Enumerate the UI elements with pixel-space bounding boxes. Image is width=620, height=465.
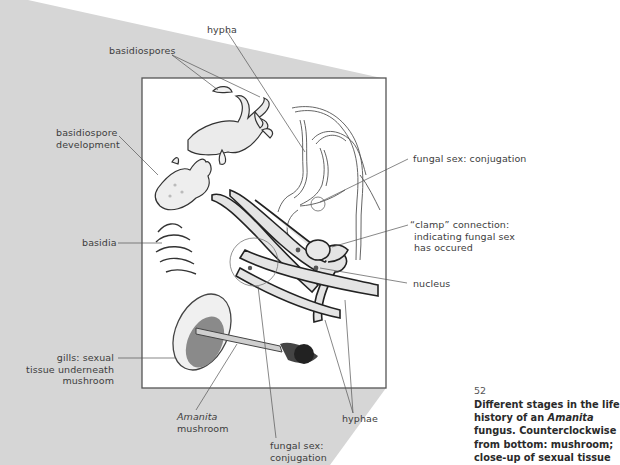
caption-line: from bottom: mushroom; [474,438,594,451]
label-hypha: hypha [207,24,237,36]
label-line: indicating fungal sex [410,231,515,243]
label-line: tissue underneath [20,364,114,376]
caption-italic: Amanita [548,412,594,423]
caption-line: close-up of sexual tissue [474,451,594,464]
label-basidiospores: basidiospores [109,45,176,57]
label-line: development [56,139,116,151]
figure-number: 52 [474,385,486,396]
label-line: mushroom [177,423,229,435]
label-line: Amanita [177,411,229,423]
label-hyphae: hyphae [342,413,378,425]
label-line: gills: sexual [20,352,114,364]
label-line: fungal sex: [270,440,327,452]
label-line: has occured [410,242,515,254]
label-fungal-sex-bottom: fungal sex: conjugation [270,440,327,463]
caption-text: history of an [474,412,548,423]
label-line: mushroom [20,375,114,387]
label-gills: gills: sexual tissue underneath mushroom [20,352,114,387]
caption-line: Different stages in the life [474,398,594,411]
label-line: conjugation [270,452,327,464]
clamp-connection [306,240,330,260]
figure-caption: Different stages in the life history of … [474,398,594,464]
caption-line: history of an Amanita [474,411,594,424]
label-basidia: basidia [82,237,117,249]
label-amanita-mushroom: Amanita mushroom [177,411,229,434]
label-nucleus: nucleus [413,278,450,290]
label-line: “clamp” connection: [410,219,515,231]
label-fungal-sex-right: fungal sex: conjugation [413,153,526,165]
caption-line: fungus. Counterclockwise [474,424,594,437]
label-clamp-connection: “clamp” connection: indicating fungal se… [410,219,515,254]
label-basidiospore-development: basidiospore development [56,127,116,150]
label-line: basidiospore [56,127,116,139]
